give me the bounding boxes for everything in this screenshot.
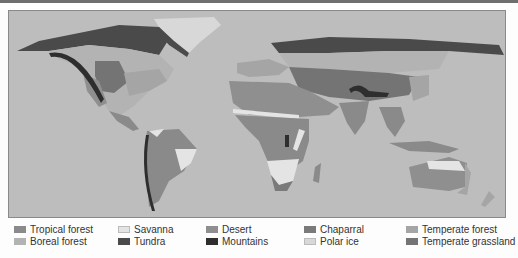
legend-label: Temperate forest xyxy=(422,224,497,235)
top-border xyxy=(0,0,518,3)
indonesia xyxy=(389,141,459,153)
legend-label: Tundra xyxy=(134,236,165,247)
southern-africa-savanna xyxy=(267,159,299,185)
world-biome-map xyxy=(8,10,506,218)
europe-temperate xyxy=(237,59,289,77)
swatch-temperate-grassland xyxy=(406,238,418,245)
swatch-temperate-forest xyxy=(406,226,418,233)
central-america-tropical xyxy=(109,111,139,131)
swatch-tundra xyxy=(118,238,130,245)
legend-item-tropical-forest: Tropical forest xyxy=(14,223,93,235)
east-africa-mountains xyxy=(285,135,289,147)
legend-label: Boreal forest xyxy=(30,236,87,247)
swatch-chaparral xyxy=(304,226,316,233)
swatch-savanna xyxy=(118,226,130,233)
legend-label: Mountains xyxy=(222,236,268,247)
new-zealand xyxy=(481,191,495,207)
madagascar xyxy=(313,163,321,183)
legend-label: Savanna xyxy=(134,224,173,235)
legend-item-boreal-forest: Boreal forest xyxy=(14,235,87,247)
legend-item-temperate-forest: Temperate forest xyxy=(406,223,497,235)
legend-item-tundra: Tundra xyxy=(118,235,165,247)
legend-item-savanna: Savanna xyxy=(118,223,173,235)
swatch-boreal-forest xyxy=(14,238,26,245)
legend-item-polar-ice: Polar ice xyxy=(304,235,359,247)
legend-label: Tropical forest xyxy=(30,224,93,235)
south-america-tropical xyxy=(144,129,197,207)
swatch-desert xyxy=(206,226,218,233)
swatch-tropical-forest xyxy=(14,226,26,233)
swatch-mountains xyxy=(206,238,218,245)
legend-item-temperate-grassland: Temperate grassland xyxy=(406,235,515,247)
legend-label: Polar ice xyxy=(320,236,359,247)
legend-item-mountains: Mountains xyxy=(206,235,268,247)
swatch-polar-ice xyxy=(304,238,316,245)
legend-label: Desert xyxy=(222,224,251,235)
map-legend: Tropical forest Boreal forest Savanna Tu… xyxy=(14,222,514,248)
map-graphic xyxy=(9,11,506,218)
southeast-asia xyxy=(379,107,405,137)
india xyxy=(339,101,369,135)
legend-label: Chaparral xyxy=(320,224,364,235)
legend-label: Temperate grassland xyxy=(422,236,515,247)
legend-item-chaparral: Chaparral xyxy=(304,223,364,235)
legend-item-desert: Desert xyxy=(206,223,251,235)
east-asia-temperate xyxy=(409,75,429,101)
